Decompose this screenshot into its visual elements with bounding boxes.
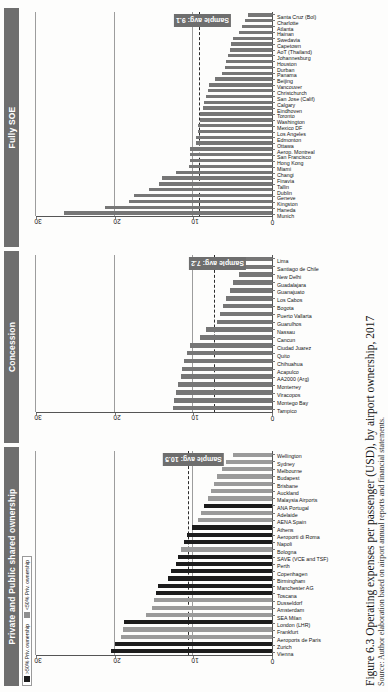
bar-cell bbox=[36, 279, 272, 287]
tick bbox=[272, 112, 275, 118]
tick bbox=[272, 82, 275, 88]
figure-page: Private and Public shared ownership>50% … bbox=[0, 0, 388, 692]
bar bbox=[217, 320, 272, 325]
bar-cell bbox=[36, 334, 272, 342]
panel-title-band-concession: Concession bbox=[4, 251, 19, 443]
tick bbox=[272, 129, 275, 135]
category-label-text: Bologna bbox=[277, 550, 296, 556]
bar-cell bbox=[36, 146, 272, 152]
bar-cell bbox=[36, 302, 272, 310]
tick bbox=[272, 100, 275, 106]
bar bbox=[158, 584, 272, 588]
bar-cell bbox=[36, 626, 272, 633]
bar-cell bbox=[36, 318, 272, 326]
tick bbox=[272, 465, 275, 472]
tick bbox=[272, 612, 275, 619]
bar bbox=[200, 118, 272, 121]
tick bbox=[272, 88, 275, 94]
tick bbox=[272, 473, 275, 480]
x-axis-ticks bbox=[272, 451, 275, 656]
tick bbox=[272, 94, 275, 100]
legend-label: >50% Priv. ownership bbox=[24, 624, 30, 674]
category-label-text: Guanajuato bbox=[277, 290, 304, 296]
bar bbox=[201, 511, 272, 515]
tick bbox=[272, 366, 275, 374]
tick bbox=[272, 12, 275, 18]
bar-cell bbox=[36, 59, 272, 65]
bar-cell bbox=[36, 648, 272, 655]
bar-cell bbox=[36, 404, 272, 412]
bar-cell bbox=[36, 381, 272, 389]
bar bbox=[146, 613, 272, 617]
category-label-text: Zurich bbox=[277, 645, 292, 651]
bar-cell bbox=[36, 64, 272, 70]
bar bbox=[222, 467, 272, 471]
bar bbox=[182, 367, 272, 372]
tick bbox=[272, 487, 275, 494]
tick bbox=[272, 524, 275, 531]
category-label-text: Guarulhos bbox=[277, 322, 301, 328]
category-label-text: Vancouver bbox=[277, 85, 302, 91]
category-label-text: Manchester AG bbox=[277, 586, 314, 592]
bar-cell bbox=[36, 349, 272, 357]
bar bbox=[233, 37, 272, 40]
category-label-text: Puerto Vallarta bbox=[277, 314, 312, 320]
bar bbox=[225, 66, 272, 69]
bar bbox=[152, 606, 272, 610]
bar-cell bbox=[36, 568, 272, 575]
bar bbox=[111, 649, 272, 653]
bar bbox=[214, 482, 272, 486]
tick bbox=[272, 205, 275, 211]
bar-cell bbox=[36, 451, 272, 458]
bar-cell bbox=[36, 458, 272, 465]
bar bbox=[196, 136, 272, 139]
legend-item: <50% Priv. ownership bbox=[24, 560, 30, 618]
bar bbox=[149, 188, 272, 191]
bar-cell bbox=[36, 473, 272, 480]
tick bbox=[272, 255, 275, 263]
bar-cell bbox=[36, 12, 272, 18]
bar-cell bbox=[36, 341, 272, 349]
category-label-text: AENA Spain bbox=[277, 520, 306, 526]
category-labels: ViennaZurichAeroports de ParisFrankfurtL… bbox=[276, 451, 350, 656]
tick bbox=[272, 182, 275, 188]
bar bbox=[129, 200, 272, 203]
bar-cell bbox=[36, 70, 272, 76]
tick bbox=[272, 641, 275, 648]
bar-cell bbox=[36, 388, 272, 396]
bar bbox=[248, 13, 272, 16]
bar bbox=[184, 359, 272, 364]
category-label-text: Monterrey bbox=[277, 385, 301, 391]
tick bbox=[272, 568, 275, 575]
tick bbox=[272, 350, 275, 358]
category-label-text: Nassau bbox=[277, 330, 295, 336]
category-label-text: Chihuahua bbox=[277, 362, 303, 368]
tick bbox=[272, 495, 275, 502]
bar-cell bbox=[36, 199, 272, 205]
category-label-text: Atlanta bbox=[277, 27, 294, 33]
category-label-text: Viracopos bbox=[277, 393, 300, 399]
tick bbox=[272, 605, 275, 612]
panel-title-band-private-public-shared: Private and Public shared ownership bbox=[4, 447, 19, 686]
bar-cell bbox=[36, 158, 272, 164]
category-label-text: Panama bbox=[277, 73, 297, 79]
bar bbox=[190, 147, 272, 150]
category-label-text: Perth bbox=[277, 564, 290, 570]
category-label-text: Aeroports de Paris bbox=[277, 638, 321, 644]
bar bbox=[204, 504, 272, 508]
bar-series bbox=[36, 451, 272, 655]
category-label-text: Quito bbox=[277, 354, 290, 360]
bar bbox=[239, 272, 272, 277]
tick bbox=[272, 59, 275, 65]
category-label: Santa Cruz (Bol) bbox=[276, 12, 350, 18]
category-label-text: Copenhagen bbox=[277, 572, 307, 578]
tick bbox=[272, 326, 275, 334]
bar-cell bbox=[36, 76, 272, 82]
y-axis-tick-mark bbox=[272, 656, 273, 659]
category-label-text: Finavia bbox=[277, 179, 294, 185]
tick bbox=[272, 176, 275, 182]
category-label-text: Bogota bbox=[277, 306, 294, 312]
bar bbox=[181, 374, 272, 379]
category-label-text: Calgary bbox=[277, 103, 295, 109]
bar-cell bbox=[36, 175, 272, 181]
